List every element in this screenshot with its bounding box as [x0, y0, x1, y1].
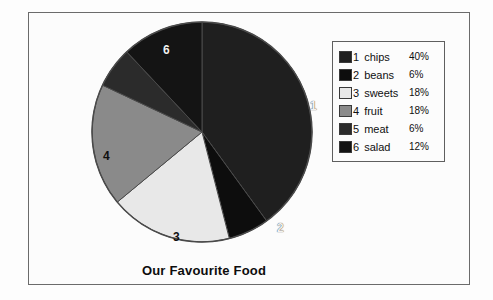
legend-item-label: meat [364, 123, 409, 135]
chart-legend: 1 chips 40% 2 beans 6% 3 sweets 18% 4 fr… [332, 41, 445, 162]
legend-item-percent: 6% [409, 123, 439, 134]
legend-item-number: 6 [353, 141, 359, 153]
legend-swatch-icon [339, 105, 352, 117]
legend-swatch-icon [339, 141, 352, 153]
legend-item-number: 4 [353, 105, 359, 117]
legend-item[interactable]: 4 fruit 18% [339, 102, 439, 119]
legend-item[interactable]: 6 salad 12% [339, 138, 439, 155]
legend-item-label: salad [364, 141, 409, 153]
legend-item-number: 3 [353, 87, 359, 99]
legend-item[interactable]: 2 beans 6% [339, 66, 439, 83]
legend-item-label: sweets [364, 87, 409, 99]
legend-swatch-icon [339, 51, 352, 63]
chart-canvas: 1 2 3 4 6 Our Favourite Food 1 chips 40%… [0, 0, 493, 300]
legend-swatch-icon [339, 123, 352, 135]
legend-item[interactable]: 3 sweets 18% [339, 84, 439, 101]
legend-swatch-icon [339, 69, 352, 81]
legend-item-label: beans [364, 69, 409, 81]
legend-item-label: chips [364, 51, 409, 63]
legend-swatch-icon [339, 87, 352, 99]
legend-item-label: fruit [364, 105, 409, 117]
legend-item-number: 1 [353, 51, 359, 63]
legend-item-percent: 40% [409, 51, 439, 62]
legend-item[interactable]: 5 meat 6% [339, 120, 439, 137]
pie-chart: 1 2 3 4 6 [64, 16, 324, 266]
legend-item-number: 2 [353, 69, 359, 81]
legend-item-percent: 18% [409, 87, 439, 98]
legend-item-percent: 18% [409, 105, 439, 116]
legend-item[interactable]: 1 chips 40% [339, 48, 439, 65]
legend-item-percent: 6% [409, 69, 439, 80]
pie-svg [64, 16, 324, 266]
chart-frame: 1 2 3 4 6 Our Favourite Food 1 chips 40%… [28, 12, 470, 285]
pie-slice-group [92, 22, 312, 242]
legend-item-number: 5 [353, 123, 359, 135]
legend-item-percent: 12% [409, 141, 439, 152]
chart-title: Our Favourite Food [89, 263, 319, 278]
